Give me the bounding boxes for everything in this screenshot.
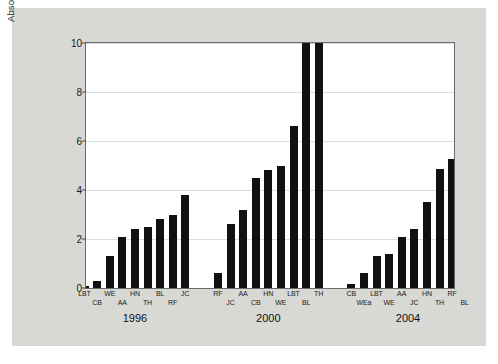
x-tick-label: JC <box>410 299 418 306</box>
x-tick-label: CB <box>251 299 261 306</box>
x-tick-label: HN <box>422 290 432 297</box>
x-tick-label: AA <box>397 290 406 297</box>
gridline <box>86 43 454 44</box>
y-tick-label: 4 <box>76 185 82 196</box>
bar <box>398 237 406 288</box>
gridline <box>86 92 454 93</box>
group-label: 1996 <box>123 312 147 324</box>
bar <box>315 43 323 288</box>
bar <box>144 227 152 288</box>
x-tick-label: WE <box>104 290 115 297</box>
x-tick-label: JC <box>181 290 189 297</box>
figure-panel: 0246810 Absolute Prediction Error (Perce… <box>12 8 486 346</box>
bar <box>181 195 189 288</box>
bar <box>93 281 101 288</box>
gridline <box>86 141 454 142</box>
x-tick-label: LBT <box>287 290 300 297</box>
bar <box>423 202 431 288</box>
x-tick-label: WEa <box>356 299 371 306</box>
y-axis-title: Absolute Prediction Error (Percentage Po… <box>5 0 16 22</box>
x-tick-label: BL <box>461 299 469 306</box>
x-tick-label: AA <box>239 290 248 297</box>
x-tick-label: RF <box>448 290 457 297</box>
bar <box>169 215 177 289</box>
x-tick-label: RF <box>168 299 177 306</box>
y-tick-mark <box>82 43 86 44</box>
bar <box>436 169 444 288</box>
x-tick-label: HN <box>263 290 273 297</box>
x-tick-label: TH <box>314 290 323 297</box>
x-tick-label: CB <box>92 299 102 306</box>
y-tick-mark <box>82 92 86 93</box>
group-label: 2000 <box>256 312 280 324</box>
plot-area: 0246810 <box>85 42 455 289</box>
bar <box>131 229 139 288</box>
y-tick-label: 6 <box>76 136 82 147</box>
x-tick-label: AA <box>118 299 127 306</box>
bar <box>252 178 260 288</box>
x-tick-label: BL <box>302 299 310 306</box>
bar <box>106 256 114 288</box>
bar <box>156 219 164 288</box>
y-tick-label: 10 <box>71 38 82 49</box>
bar <box>264 170 272 288</box>
x-tick-label: TH <box>143 299 152 306</box>
bar <box>373 256 381 288</box>
x-tick-label: RF <box>213 290 222 297</box>
y-tick-mark <box>82 190 86 191</box>
x-tick-label: TH <box>435 299 444 306</box>
bar <box>86 286 89 288</box>
y-tick-mark <box>82 239 86 240</box>
group-label: 2004 <box>396 312 420 324</box>
y-tick-mark <box>82 288 86 289</box>
x-tick-label: WE <box>275 299 286 306</box>
x-tick-label: BL <box>156 290 164 297</box>
bar <box>410 229 418 288</box>
bar <box>347 284 355 288</box>
bar <box>302 43 310 288</box>
x-tick-label: WE <box>384 299 395 306</box>
bar <box>277 166 285 289</box>
x-tick-label: CB <box>347 290 357 297</box>
y-tick-mark <box>82 141 86 142</box>
bar <box>385 254 393 288</box>
y-tick-label: 2 <box>76 234 82 245</box>
bar <box>227 224 235 288</box>
y-tick-label: 8 <box>76 87 82 98</box>
x-tick-label: HN <box>130 290 140 297</box>
bar <box>290 126 298 288</box>
bar <box>214 273 222 288</box>
x-tick-label: JC <box>226 299 234 306</box>
bar <box>448 159 454 288</box>
bar <box>360 273 368 288</box>
bar <box>118 237 126 288</box>
x-tick-label: LBT <box>370 290 383 297</box>
bar <box>239 210 247 288</box>
plot-inner <box>86 43 454 288</box>
x-tick-label: LBT <box>78 290 91 297</box>
